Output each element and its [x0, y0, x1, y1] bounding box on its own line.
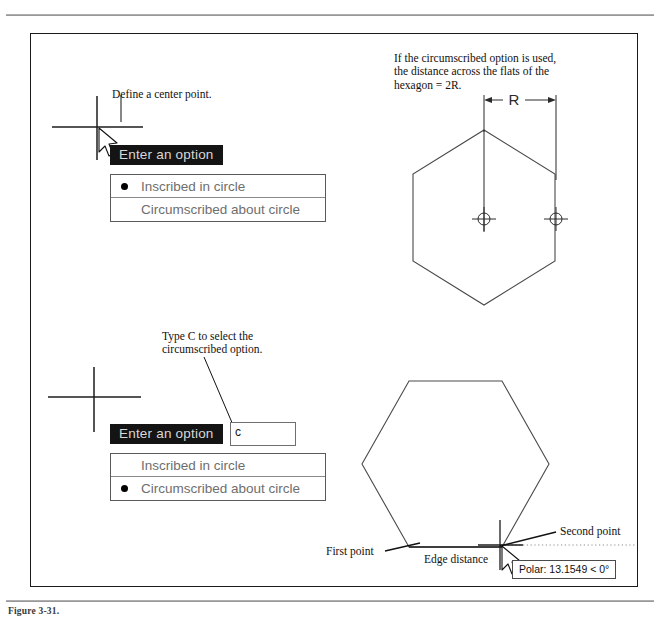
menu-item-label: Circumscribed about circle	[141, 481, 300, 496]
menu-item-label: Circumscribed about circle	[141, 202, 300, 217]
dynamic-input-top: Enter an option	[110, 145, 223, 165]
leader-type-c	[204, 357, 233, 425]
center-mark-radius	[544, 207, 568, 231]
hexagon-inscribed	[362, 381, 549, 547]
menu-item-circumscribed-top[interactable]: Circumscribed about circle	[111, 198, 325, 221]
menu-item-label: Inscribed in circle	[141, 179, 245, 194]
center-mark-polygon	[472, 207, 496, 231]
menu-item-circumscribed-bottom[interactable]: Circumscribed about circle	[111, 477, 325, 500]
annotation-second-point: Second point	[560, 525, 620, 538]
selected-bullet-icon	[121, 485, 128, 492]
dynamic-input-bottom: Enter an option	[110, 424, 223, 444]
option-menu-bottom[interactable]: Inscribed in circle Circumscribed about …	[110, 453, 326, 501]
menu-item-inscribed-top[interactable]: Inscribed in circle	[111, 175, 325, 198]
option-entry-field[interactable]: c	[230, 422, 296, 446]
annotation-type-c-note: Type C to select the circumscribed optio…	[162, 330, 262, 357]
menu-item-label: Inscribed in circle	[141, 458, 245, 473]
selected-bullet-icon	[121, 183, 128, 190]
annotation-first-point: First point	[326, 545, 374, 558]
annotation-edge-distance: Edge distance	[424, 553, 488, 566]
annotation-circumscribed-note: If the circumscribed option is used, the…	[394, 52, 556, 92]
menu-item-inscribed-bottom[interactable]: Inscribed in circle	[111, 454, 325, 477]
polar-readout-tooltip: Polar: 13.1549 < 0°	[512, 560, 616, 579]
leader-second-point	[500, 532, 556, 546]
annotation-define-center: Define a center point.	[112, 88, 212, 101]
dynamic-prompt-bottom: Enter an option	[110, 424, 223, 444]
crosshair-bottom	[48, 367, 141, 432]
option-menu-top[interactable]: Inscribed in circle Circumscribed about …	[110, 174, 326, 222]
radius-dimension-text: R	[509, 91, 520, 108]
dynamic-prompt-top: Enter an option	[110, 145, 223, 165]
figure-caption: Figure 3-31.	[8, 606, 59, 616]
